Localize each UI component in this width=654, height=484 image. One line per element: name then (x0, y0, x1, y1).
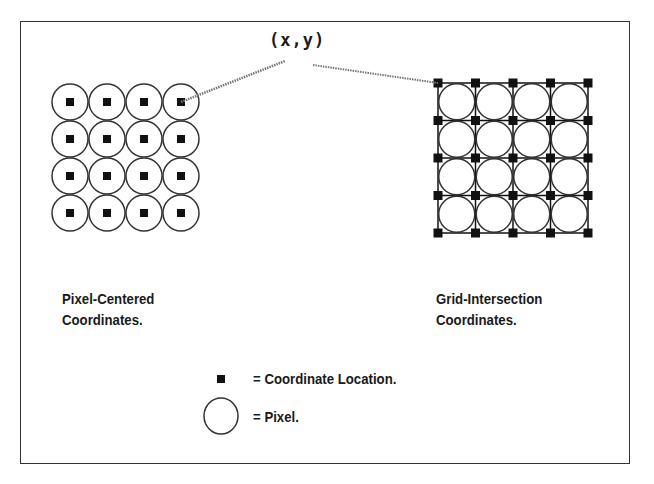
coordinate-marker (584, 191, 593, 200)
coordinate-marker (546, 191, 555, 200)
coordinate-marker (471, 154, 480, 163)
coordinate-marker (140, 209, 148, 217)
pixel-circle (514, 84, 550, 120)
pixel-circle (439, 84, 475, 120)
leader-line-right (313, 65, 438, 83)
coordinate-marker (509, 116, 518, 125)
pixel-circle (551, 196, 587, 232)
coordinate-marker (103, 98, 111, 106)
coordinate-marker (103, 135, 111, 143)
coordinate-marker (546, 79, 555, 88)
leader-line-left (181, 61, 285, 102)
coordinate-marker (140, 98, 148, 106)
pixel-centered-grid (52, 84, 199, 231)
coordinate-marker (584, 154, 593, 163)
pixel-circle (551, 159, 587, 195)
pixel-circle (476, 84, 512, 120)
coordinate-marker (584, 116, 593, 125)
coordinate-marker (177, 172, 185, 180)
coordinate-marker (471, 116, 480, 125)
coordinate-marker (509, 229, 518, 238)
coordinate-diagram (0, 0, 654, 484)
legend-coordinate-location-label: = Coordinate Location. (253, 368, 396, 389)
coordinate-marker (103, 172, 111, 180)
coordinate-marker (509, 154, 518, 163)
pixel-circle (551, 84, 587, 120)
left-panel-title-line1: Pixel-Centered (62, 288, 154, 309)
coordinate-marker (434, 229, 443, 238)
coordinate-marker (471, 191, 480, 200)
coordinate-marker (103, 209, 111, 217)
pixel-circle (439, 196, 475, 232)
coordinate-marker (66, 209, 74, 217)
coordinate-marker (177, 209, 185, 217)
pixel-circle (476, 159, 512, 195)
pixel-circle (514, 159, 550, 195)
pixel-circle-icon (204, 398, 238, 434)
pixel-circle (439, 159, 475, 195)
right-panel-title-line2: Coordinates. (436, 309, 517, 330)
legend-icons (204, 375, 238, 434)
coordinate-marker (471, 229, 480, 238)
coordinate-marker (66, 98, 74, 106)
coordinate-marker (584, 79, 593, 88)
coordinate-marker (434, 191, 443, 200)
coordinate-marker (177, 135, 185, 143)
coordinate-marker (584, 229, 593, 238)
pixel-circle (514, 196, 550, 232)
callout-leader-lines (181, 61, 438, 102)
coordinate-marker (140, 135, 148, 143)
coordinate-square-icon (217, 375, 225, 383)
pixel-circle (514, 121, 550, 157)
coordinate-callout-label: (x,y) (269, 30, 325, 50)
coordinate-marker (546, 154, 555, 163)
pixel-circle (551, 121, 587, 157)
coordinate-marker (434, 154, 443, 163)
pixel-circle (476, 121, 512, 157)
coordinate-marker (546, 229, 555, 238)
coordinate-marker (66, 135, 74, 143)
coordinate-marker (546, 116, 555, 125)
pixel-circle (476, 196, 512, 232)
legend-pixel-label: = Pixel. (253, 406, 299, 427)
right-panel-title-line1: Grid-Intersection (436, 288, 542, 309)
coordinate-marker (140, 172, 148, 180)
coordinate-marker (434, 116, 443, 125)
coordinate-marker (509, 79, 518, 88)
coordinate-marker (471, 79, 480, 88)
coordinate-marker (509, 191, 518, 200)
left-panel-title-line2: Coordinates. (62, 309, 143, 330)
grid-intersection-grid (434, 79, 593, 238)
coordinate-marker (66, 172, 74, 180)
pixel-circle (439, 121, 475, 157)
